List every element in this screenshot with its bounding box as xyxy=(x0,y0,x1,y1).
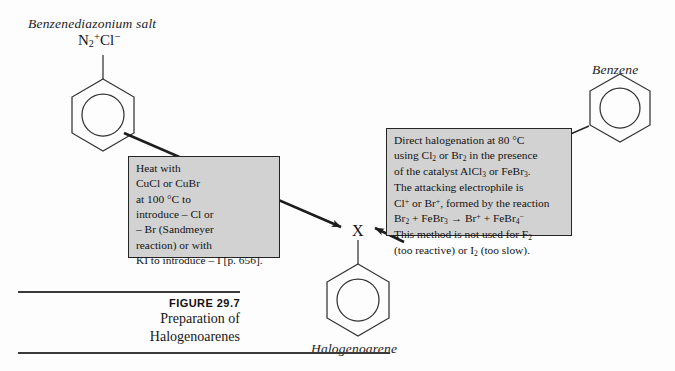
callout-line: CuCl or CuBr xyxy=(136,176,273,191)
callout-line: This method is not used for F2 xyxy=(394,227,565,243)
figure-page: Benzenediazonium salt N2+Cl− Benzene X H… xyxy=(0,0,675,371)
callout-line: using Cl2 or Br2 in the presence xyxy=(394,148,565,164)
label-halogenoarene: Halogenoarene xyxy=(311,341,397,357)
benzene-ring-hexagon-right xyxy=(590,74,650,142)
aromatic-circle-product xyxy=(337,279,379,321)
callout-line: (too reactive) or I2 (too slow). xyxy=(394,243,565,259)
caption-rule-bottom xyxy=(18,352,390,354)
callout-line: introduce – Cl or xyxy=(136,207,273,222)
formula-diazonium-group: N2+Cl− xyxy=(78,30,120,49)
callout-line: Br2 + FeBr3 → Br+ + FeBr4− xyxy=(394,211,565,227)
callout-line: Heat with xyxy=(136,161,273,176)
callout-line: Direct halogenation at 80 °C xyxy=(394,133,565,148)
figure-title-line-2: Halogenoarenes xyxy=(18,328,240,346)
callout-line: – Br (Sandmeyer xyxy=(136,222,273,237)
callout-direct-halogenation: Direct halogenation at 80 °Cusing Cl2 or… xyxy=(386,128,572,236)
callout-right-lines: Direct halogenation at 80 °Cusing Cl2 or… xyxy=(394,133,565,259)
figure-title-line-1: Preparation of xyxy=(18,310,240,328)
figure-number: FIGURE 29.7 xyxy=(18,297,240,310)
callout-line: KI to introduce – I [p. 656]. xyxy=(136,253,273,268)
benzene-structure xyxy=(566,74,650,142)
callout-line: at 100 °C to xyxy=(136,192,273,207)
label-substituent-x: X xyxy=(352,222,364,240)
callout-sandmeyer-reaction: Heat withCuCl or CuBrat 100 °C tointrodu… xyxy=(128,156,280,258)
callout-left-lines: Heat withCuCl or CuBrat 100 °C tointrodu… xyxy=(136,161,273,268)
halogenoarene-structure xyxy=(327,240,389,336)
label-benzene: Benzene xyxy=(592,62,638,78)
callout-line: reaction) or with xyxy=(136,238,273,253)
callout-line: The attacking electrophile is xyxy=(394,180,565,195)
aromatic-circle-left xyxy=(82,94,124,136)
caption-text: FIGURE 29.7 Preparation of Halogenoarene… xyxy=(18,293,240,346)
aromatic-circle-right xyxy=(600,88,640,128)
callout-line: of the catalyst AlCl3 or FeBr3. xyxy=(394,164,565,180)
benzene-ring-hexagon-left xyxy=(72,79,134,151)
figure-caption: FIGURE 29.7 Preparation of Halogenoarene… xyxy=(18,291,240,346)
callout-line: Cl+ or Br+, formed by the reaction xyxy=(394,196,565,211)
benzenediazonium-structure xyxy=(72,55,134,151)
benzene-ring-hexagon-product xyxy=(327,264,389,336)
